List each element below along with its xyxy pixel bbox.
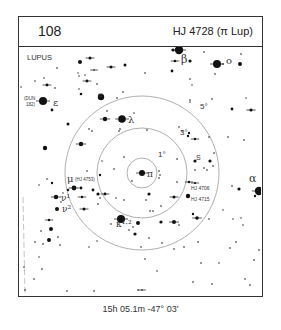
chart-title: HJ 4728 (π Lup) (173, 25, 253, 37)
star-marker (189, 78, 191, 80)
star-marker (145, 199, 147, 201)
label-mu: μ (67, 173, 74, 184)
star-marker (189, 99, 191, 101)
star-marker (181, 130, 183, 132)
star-markers (20, 47, 261, 292)
star-marker (237, 187, 240, 190)
star-marker (231, 108, 234, 111)
star-marker (200, 262, 202, 264)
label-s: S (196, 154, 201, 161)
star-marker (67, 123, 70, 126)
star-marker (89, 57, 92, 60)
star-marker (171, 48, 174, 51)
label-alpha: α (249, 172, 257, 185)
star-marker (176, 181, 178, 183)
star-marker (240, 217, 241, 218)
star-marker (235, 241, 237, 243)
star-marker (197, 241, 199, 243)
star-marker (149, 210, 151, 212)
star-marker (91, 130, 93, 132)
star-marker (46, 84, 49, 87)
ring-label-5: 5° (200, 102, 208, 111)
star-marker (124, 64, 127, 67)
star-marker (173, 248, 175, 250)
star-marker (212, 165, 214, 167)
star-marker (38, 256, 39, 257)
star-marker (96, 83, 98, 85)
star-marker (83, 208, 86, 211)
star-marker (34, 80, 35, 81)
star-marker (115, 197, 116, 198)
star-marker (253, 259, 255, 261)
star-marker (57, 236, 59, 238)
ring-label-3: 3° (180, 128, 188, 137)
star-marker (172, 220, 176, 224)
star-marker (88, 246, 89, 247)
star-marker (101, 160, 102, 161)
star-marker (96, 240, 97, 241)
star-marker (158, 170, 160, 172)
label-epsilon-catalog-2: 182) (26, 102, 36, 107)
star-marker (39, 97, 47, 105)
star-marker (59, 244, 61, 246)
star-marker (249, 108, 252, 111)
chart-center-coordinates: 15h 05.1m -47° 03' (0, 304, 281, 314)
star-marker (192, 213, 194, 215)
star-marker (79, 142, 83, 146)
star-marker (80, 93, 83, 96)
star-marker (258, 249, 260, 251)
star-marker (188, 59, 191, 62)
star-marker (133, 232, 136, 235)
chart-number: 108 (38, 23, 61, 39)
label-nu2: ν² (62, 204, 71, 214)
star-marker (34, 241, 36, 243)
star-marker (110, 66, 113, 69)
star-marker (119, 128, 121, 130)
star-marker (255, 187, 261, 195)
star-marker (51, 182, 53, 184)
star-marker (67, 189, 69, 191)
star-marker (174, 60, 177, 63)
star-marker (159, 174, 161, 176)
star-marker (78, 75, 79, 76)
finder-chart-frame: 108 HJ 4728 (π Lup) LUPUS 1° 3° 5° β o ε… (18, 16, 263, 297)
star-marker (206, 169, 208, 171)
label-hj4706: HJ 4706 (191, 185, 210, 191)
star-marker (99, 174, 101, 176)
star-marker (66, 290, 68, 292)
star-marker (188, 181, 190, 183)
star-marker (227, 136, 229, 138)
star-marker (186, 194, 190, 198)
star-field-map: LUPUS 1° 3° 5° β o ε (DUN 182) e λ π S H… (19, 47, 261, 296)
star-marker (128, 229, 130, 231)
star-marker (156, 270, 157, 271)
star-marker (161, 242, 163, 244)
star-marker (152, 210, 154, 212)
star-marker (254, 195, 256, 197)
star-marker (144, 258, 146, 260)
star-marker (218, 262, 219, 263)
star-marker (231, 185, 233, 187)
star-marker (132, 226, 134, 228)
star-marker (84, 74, 85, 75)
star-marker (229, 247, 231, 249)
star-marker (122, 91, 124, 93)
star-marker (211, 283, 213, 285)
star-marker (41, 268, 43, 270)
label-kappa: κ¹·² (116, 219, 132, 229)
star-marker (51, 109, 54, 112)
star-marker (92, 189, 95, 192)
star-marker (86, 170, 88, 172)
star-marker (110, 223, 112, 225)
star-marker (203, 167, 205, 169)
star-marker (81, 196, 83, 198)
star-marker (93, 290, 95, 292)
star-marker (232, 218, 233, 219)
star-marker (123, 156, 125, 158)
star-marker (140, 246, 142, 248)
star-marker (243, 139, 245, 141)
star-marker (99, 197, 101, 199)
star-marker (192, 281, 194, 283)
star-marker (245, 97, 246, 98)
star-marker (24, 289, 26, 291)
